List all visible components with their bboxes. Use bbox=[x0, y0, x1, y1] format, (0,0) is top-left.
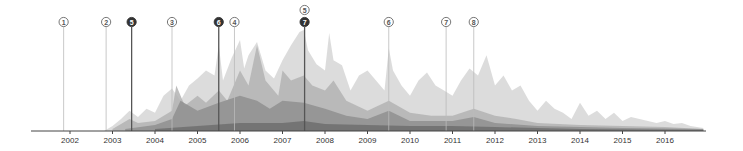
x-tick-label: 2013 bbox=[529, 136, 547, 145]
marker-number: 7 bbox=[444, 19, 448, 26]
marker-number: 5 bbox=[130, 19, 134, 26]
annotation-marker-6[interactable]: 6 bbox=[384, 17, 393, 26]
x-tick-label: 2003 bbox=[104, 136, 122, 145]
annotation-markers: 12536457678 bbox=[59, 5, 478, 26]
x-tick-label: 2014 bbox=[571, 136, 589, 145]
annotation-marker-7[interactable]: 7 bbox=[300, 17, 309, 26]
x-tick-label: 2011 bbox=[444, 136, 462, 145]
annotation-marker-5[interactable]: 5 bbox=[127, 17, 136, 26]
x-tick-label: 2008 bbox=[316, 136, 334, 145]
annotation-marker-8[interactable]: 8 bbox=[469, 17, 478, 26]
annotation-marker-7[interactable]: 7 bbox=[442, 17, 451, 26]
annotation-marker-6[interactable]: 6 bbox=[214, 17, 223, 26]
x-axis-ticks: 2002200320042005200620072008200920102011… bbox=[61, 131, 674, 145]
streamgraph-chart: 2002200320042005200620072008200920102011… bbox=[0, 0, 743, 151]
annotation-marker-1[interactable]: 1 bbox=[59, 17, 68, 26]
annotation-marker-4[interactable]: 4 bbox=[230, 17, 239, 26]
area-layers bbox=[104, 30, 703, 131]
marker-number: 8 bbox=[472, 19, 476, 26]
annotation-marker-2[interactable]: 2 bbox=[102, 17, 111, 26]
x-tick-label: 2006 bbox=[231, 136, 249, 145]
marker-number: 1 bbox=[62, 19, 66, 26]
x-tick-label: 2016 bbox=[656, 136, 674, 145]
marker-number: 4 bbox=[233, 19, 237, 26]
marker-number: 6 bbox=[387, 19, 391, 26]
annotation-marker-3[interactable]: 3 bbox=[167, 17, 176, 26]
annotation-marker-5[interactable]: 5 bbox=[300, 5, 309, 14]
x-tick-label: 2007 bbox=[274, 136, 292, 145]
x-tick-label: 2005 bbox=[189, 136, 207, 145]
marker-number: 3 bbox=[170, 19, 174, 26]
x-tick-label: 2015 bbox=[614, 136, 632, 145]
x-tick-label: 2004 bbox=[146, 136, 164, 145]
marker-number: 7 bbox=[303, 19, 307, 26]
x-tick-label: 2009 bbox=[359, 136, 377, 145]
x-tick-label: 2012 bbox=[486, 136, 504, 145]
marker-number: 5 bbox=[303, 7, 307, 14]
x-tick-label: 2010 bbox=[401, 136, 419, 145]
x-tick-label: 2002 bbox=[61, 136, 79, 145]
marker-number: 6 bbox=[217, 19, 221, 26]
marker-number: 2 bbox=[104, 19, 108, 26]
